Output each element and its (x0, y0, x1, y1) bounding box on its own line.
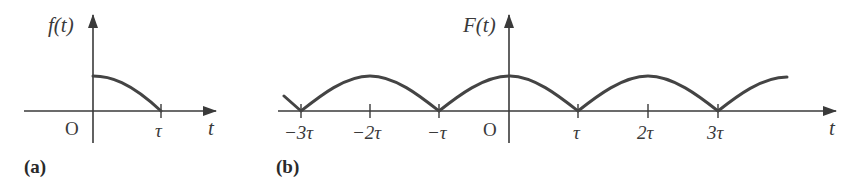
panel-a-x-axis-label: t (208, 116, 215, 140)
panel-b-curve (284, 76, 787, 111)
panel-b-x-axis-label: t (829, 116, 836, 140)
panel-a-y-axis-label: f(t) (48, 13, 74, 37)
figure: f(t) O τ t (a) F(t) O −3τ −2τ −τ τ 2τ 3τ… (0, 0, 857, 186)
panel-b-tick-label: −τ (427, 122, 448, 143)
panel-a: f(t) O τ t (a) (24, 13, 216, 178)
panel-b-tick-label: 2τ (637, 122, 655, 143)
panel-b-origin-label: O (483, 119, 497, 140)
panel-a-origin-label: O (65, 118, 79, 139)
panel-a-curve (93, 76, 161, 111)
panel-b: F(t) O −3τ −2τ −τ τ 2τ 3τ t (b) (276, 13, 836, 178)
panel-a-label: (a) (24, 156, 46, 178)
panel-b-tick-label: −2τ (352, 122, 382, 143)
panel-b-tick-label: −3τ (284, 122, 314, 143)
panel-b-tick-label: 3τ (706, 122, 725, 143)
panel-b-label: (b) (276, 156, 299, 178)
panel-b-tick-label: τ (573, 122, 581, 143)
panel-b-y-axis-label: F(t) (462, 13, 496, 37)
panel-a-tick-label-tau: τ (155, 120, 163, 141)
